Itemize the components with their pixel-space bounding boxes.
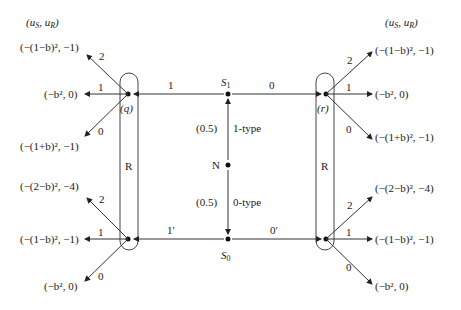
- payoff-lt-0: (−(1+b)², −1): [20, 140, 79, 153]
- receiver-label-left: R: [125, 160, 133, 172]
- rb-action-1: 1: [346, 226, 352, 238]
- s1-action-right: 0: [269, 79, 275, 91]
- nature-node: [226, 163, 231, 168]
- sender-s1-label: S1: [221, 76, 231, 90]
- sender-node-s0: [226, 237, 231, 242]
- belief-q-label: (q): [120, 102, 133, 115]
- lt-action-1: 1: [98, 81, 104, 93]
- payoff-lt-1: (−b², 0): [44, 88, 78, 101]
- payoff-rb-2: (−(2−b)², −4): [375, 182, 434, 195]
- payoff-rb-1: (−(1−b)², −1): [375, 233, 434, 246]
- game-tree-diagram: (uS, uR) (uS, uR) R R (q) (r) N (0.5) 1-…: [0, 0, 461, 310]
- payoff-lb-2: (−(2−b)², −4): [20, 180, 79, 193]
- prob-down: (0.5): [196, 196, 217, 209]
- s0-action-left: 1′: [167, 224, 175, 236]
- payoff-rt-0: (−(1+b)², −1): [375, 131, 434, 144]
- lb-action-2: 2: [99, 193, 105, 205]
- sender-s0-label: S0: [221, 249, 231, 263]
- lb-action-1: 1: [98, 226, 104, 238]
- rt-action-0: 0: [346, 123, 352, 135]
- payoff-header-right: (uS, uR): [385, 16, 418, 30]
- payoff-lb-1: (−(1−b)², −1): [20, 233, 79, 246]
- lt-branch-2: [87, 55, 128, 94]
- type-up: 1-type: [233, 122, 261, 134]
- belief-r-label: (r): [317, 102, 329, 115]
- lt-branch-0: [85, 94, 128, 136]
- payoff-rt-1: (−b², 0): [375, 88, 409, 101]
- payoff-rt-2: (−(1−b)², −1): [375, 44, 434, 57]
- payoff-lb-0: (−b², 0): [44, 280, 78, 293]
- payoff-lt-2: (−(1−b)², −1): [20, 41, 79, 54]
- lt-action-0: 0: [98, 125, 104, 137]
- rb-action-0: 0: [346, 261, 352, 273]
- nature-label: N: [212, 159, 220, 171]
- payoff-header-left: (uS, uR): [26, 16, 59, 30]
- receiver-label-right: R: [321, 160, 329, 172]
- s1-action-left: 1: [168, 79, 174, 91]
- s0-action-right: 0′: [270, 224, 278, 236]
- sender-node-s1: [226, 92, 231, 97]
- lb-branch-0: [85, 239, 128, 281]
- rt-action-2: 2: [347, 54, 353, 66]
- payoff-rb-0: (−b², 0): [375, 280, 409, 293]
- prob-up: (0.5): [196, 122, 217, 135]
- rb-action-2: 2: [347, 199, 353, 211]
- rt-action-1: 1: [346, 81, 352, 93]
- type-down: 0-type: [233, 196, 261, 208]
- lb-branch-2: [87, 198, 128, 239]
- lt-action-2: 2: [99, 50, 105, 62]
- lb-action-0: 0: [98, 270, 104, 282]
